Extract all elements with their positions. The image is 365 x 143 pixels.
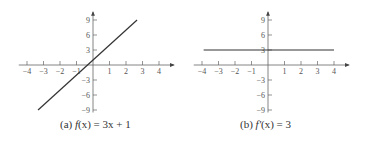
y-tick-label: 3: [86, 46, 90, 55]
x-tick-label: −4: [23, 67, 32, 76]
plot-a: −4−3−2−11234963−3−6−9: [19, 12, 174, 115]
x-tick-label: 2: [299, 67, 303, 76]
x-tick-label: −3: [39, 67, 48, 76]
x-tick-label: 1: [108, 67, 112, 76]
x-tick-label: −3: [214, 67, 223, 76]
x-tick-label: 3: [316, 67, 320, 76]
y-tick-label: −3: [81, 76, 90, 85]
y-tick-label: 6: [86, 31, 90, 40]
y-tick-label: −6: [256, 91, 265, 100]
x-tick-label: −1: [247, 67, 256, 76]
y-tick-label: −3: [256, 76, 265, 85]
y-tick-label: 9: [86, 16, 90, 25]
caption-b-rest: (x) = 3: [261, 118, 291, 130]
x-tick-label: 4: [157, 67, 161, 76]
y-tick-label: −9: [81, 106, 90, 115]
caption-b: (b) f′(x) = 3: [240, 118, 291, 130]
caption-a-prefix: (a): [60, 118, 72, 130]
caption-b-prefix: (b): [240, 118, 253, 130]
caption-a-rest: (x) = 3x + 1: [78, 118, 131, 130]
x-tick-label: −2: [231, 67, 240, 76]
x-tick-label: 2: [124, 67, 128, 76]
caption-a: (a) f(x) = 3x + 1: [60, 118, 131, 130]
x-tick-label: 1: [283, 67, 287, 76]
y-tick-label: −6: [81, 91, 90, 100]
x-tick-label: −4: [198, 67, 207, 76]
y-tick-label: 9: [261, 16, 265, 25]
y-tick-label: 6: [261, 31, 265, 40]
x-tick-label: −2: [56, 67, 65, 76]
x-tick-label: 4: [332, 67, 336, 76]
plot-b: −4−3−2−11234963−3−6−9: [194, 12, 349, 115]
y-tick-label: −9: [256, 106, 265, 115]
charts-canvas: −4−3−2−11234963−3−6−9 −4−3−2−11234963−3−…: [0, 0, 365, 143]
x-tick-label: 3: [141, 67, 145, 76]
